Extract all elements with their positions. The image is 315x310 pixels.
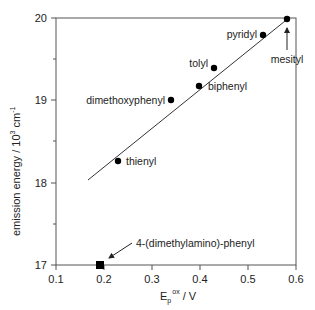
x-tick-label: 0.6 xyxy=(288,273,303,285)
x-axis-label: Epox / V xyxy=(160,288,197,305)
x-tick-label: 0.1 xyxy=(48,273,63,285)
point-label-dimethoxyphenyl: dimethoxyphenyl xyxy=(86,94,165,106)
point-label-tolyl: tolyl xyxy=(189,57,208,69)
data-point-biphenyl xyxy=(196,83,202,89)
data-point-thienyl xyxy=(115,158,121,164)
x-axis xyxy=(56,265,296,270)
point-label-biphenyl: biphenyl xyxy=(208,80,247,92)
dimethylaminophenyl-arrow xyxy=(109,243,132,258)
y-tick-label: 17 xyxy=(35,259,47,271)
y-axis-label: emission energy / 103 cm-1 xyxy=(9,107,22,236)
x-tick-label: 0.2 xyxy=(96,273,111,285)
data-point-dimethoxyphenyl xyxy=(168,97,174,103)
point-label-mesityl: mesityl xyxy=(271,53,304,65)
point-label-dimethylaminophenyl: 4-(dimethylamino)-phenyl xyxy=(136,237,254,249)
data-point-pyridyl xyxy=(260,32,266,38)
x-tick-label: 0.3 xyxy=(144,273,159,285)
x-tick-label: 0.4 xyxy=(192,273,207,285)
plot-frame xyxy=(56,18,296,265)
scatter-chart: 20 19 18 17 0.1 0.2 0.3 0.4 0.5 0.6 Epox… xyxy=(0,0,315,310)
y-axis xyxy=(51,18,56,265)
x-tick-label: 0.5 xyxy=(240,273,255,285)
data-point-mesityl xyxy=(284,16,290,22)
point-label-thienyl: thienyl xyxy=(126,155,156,167)
point-label-pyridyl: pyridyl xyxy=(227,28,257,40)
y-tick-label: 20 xyxy=(35,12,47,24)
data-point-tolyl xyxy=(211,65,217,71)
data-point-dimethylaminophenyl xyxy=(96,261,104,269)
y-tick-label: 19 xyxy=(35,94,47,106)
y-tick-label: 18 xyxy=(35,177,47,189)
